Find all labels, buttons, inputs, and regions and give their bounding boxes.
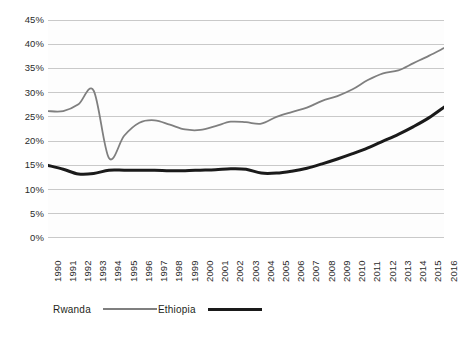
y-axis-tick-label: 15% <box>2 160 44 170</box>
series-lines <box>48 20 444 238</box>
y-axis-tick-label: 45% <box>2 15 44 25</box>
x-axis-tick-label: 2010 <box>357 260 367 282</box>
x-axis-tick-label: 1997 <box>159 260 169 282</box>
x-axis-tick-label: 1991 <box>68 260 78 282</box>
legend-line-swatch <box>208 308 262 311</box>
x-axis-tick-label: 1998 <box>174 260 184 282</box>
plot-area <box>48 20 444 238</box>
chart-legend: RwandaEthiopia <box>48 301 444 321</box>
y-axis-tick-label: 0% <box>2 233 44 243</box>
x-axis-tick-label: 2003 <box>251 260 261 282</box>
x-axis-tick-label: 2007 <box>311 260 321 282</box>
legend-label: Rwanda <box>53 304 91 315</box>
x-axis-tick-label: 1996 <box>144 260 154 282</box>
x-axis-tick-label: 1990 <box>53 260 63 282</box>
x-axis-tick-label: 1993 <box>98 260 108 282</box>
x-axis-tick-label: 1992 <box>83 260 93 282</box>
x-axis-tick-label: 2009 <box>342 260 352 282</box>
x-axis-tick-label: 2004 <box>266 260 276 282</box>
legend-label: Ethiopia <box>158 304 196 315</box>
legend-item-rwanda[interactable]: Rwanda <box>53 301 157 317</box>
x-axis-tick-label: 2000 <box>205 260 215 282</box>
x-axis-tick-label: 2008 <box>327 260 337 282</box>
y-axis-tick-label: 20% <box>2 136 44 146</box>
x-axis-tick-label: 2016 <box>449 260 458 282</box>
x-axis-tick-label: 1995 <box>129 260 139 282</box>
y-axis-tick-label: 25% <box>2 112 44 122</box>
legend-line-swatch <box>103 308 157 310</box>
y-axis-tick-label: 30% <box>2 88 44 98</box>
x-axis-tick-label: 1994 <box>113 260 123 282</box>
x-axis-tick-label: 2012 <box>388 260 398 282</box>
line-chart: 45%40%35%30%25%20%15%10%5%0% 19901991199… <box>0 0 458 339</box>
y-axis-tick-label: 40% <box>2 39 44 49</box>
x-axis-tick-label: 2005 <box>281 260 291 282</box>
y-axis-tick-label: 10% <box>2 185 44 195</box>
y-axis-tick-label: 35% <box>2 63 44 73</box>
x-axis-tick-label: 2001 <box>220 260 230 282</box>
x-axis-tick-label: 1999 <box>190 260 200 282</box>
x-axis-tick-label: 2014 <box>418 260 428 282</box>
y-axis-tick-label: 5% <box>2 209 44 219</box>
x-axis-tick-label: 2002 <box>235 260 245 282</box>
legend-swatch-stroke <box>208 308 262 311</box>
x-axis-tick-label: 2013 <box>403 260 413 282</box>
x-axis: 1990199119921993199419951996199719981999… <box>48 242 444 292</box>
legend-item-ethiopia[interactable]: Ethiopia <box>158 301 262 317</box>
x-axis-tick-label: 2011 <box>372 261 382 282</box>
y-axis: 45%40%35%30%25%20%15%10%5%0% <box>0 0 44 258</box>
x-axis-tick-label: 2015 <box>433 260 443 282</box>
legend-swatch-stroke <box>103 308 157 310</box>
x-axis-tick-label: 2006 <box>296 260 306 282</box>
